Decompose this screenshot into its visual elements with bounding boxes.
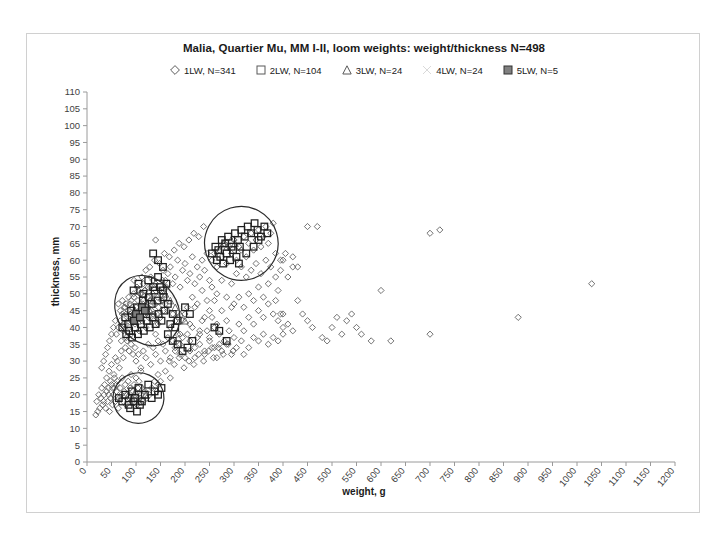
- chart-container: Malia, Quartier Mu, MM I-II, loom weight…: [26, 33, 700, 513]
- svg-text:70: 70: [69, 221, 80, 232]
- svg-text:90: 90: [69, 154, 80, 165]
- svg-text:65: 65: [69, 238, 80, 249]
- svg-text:50: 50: [98, 465, 113, 480]
- svg-text:1000: 1000: [557, 465, 579, 488]
- svg-text:800: 800: [462, 465, 481, 484]
- svg-text:40: 40: [69, 322, 80, 333]
- svg-text:300: 300: [217, 465, 236, 484]
- svg-text:1050: 1050: [581, 465, 603, 488]
- svg-text:1200: 1200: [655, 465, 677, 488]
- svg-text:150: 150: [143, 465, 162, 484]
- svg-text:50: 50: [69, 288, 80, 299]
- svg-text:1100: 1100: [606, 465, 628, 488]
- svg-text:45: 45: [69, 305, 80, 316]
- svg-text:350: 350: [241, 465, 260, 484]
- svg-text:15: 15: [69, 406, 80, 417]
- svg-text:30: 30: [69, 355, 80, 366]
- svg-text:100: 100: [64, 120, 80, 131]
- svg-text:650: 650: [388, 465, 407, 484]
- svg-text:105: 105: [64, 103, 80, 114]
- svg-text:550: 550: [339, 465, 358, 484]
- svg-text:250: 250: [192, 465, 211, 484]
- svg-text:1150: 1150: [630, 465, 652, 488]
- svg-text:0: 0: [77, 465, 89, 476]
- series-diamond: [93, 220, 595, 418]
- svg-text:55: 55: [69, 271, 80, 282]
- svg-text:20: 20: [69, 389, 80, 400]
- plot-area: 0510152025303540455055606570758085909510…: [27, 34, 701, 514]
- svg-text:60: 60: [69, 255, 80, 266]
- svg-text:5: 5: [75, 440, 80, 451]
- svg-text:400: 400: [266, 465, 285, 484]
- svg-text:200: 200: [168, 465, 187, 484]
- svg-text:110: 110: [65, 86, 80, 97]
- svg-text:80: 80: [69, 187, 80, 198]
- svg-text:700: 700: [413, 465, 432, 484]
- svg-text:500: 500: [315, 465, 334, 484]
- svg-text:450: 450: [290, 465, 309, 484]
- svg-text:35: 35: [69, 339, 80, 350]
- svg-text:25: 25: [69, 372, 80, 383]
- svg-text:750: 750: [437, 465, 456, 484]
- svg-text:75: 75: [69, 204, 80, 215]
- svg-text:900: 900: [511, 465, 530, 484]
- svg-text:950: 950: [535, 465, 554, 484]
- svg-text:85: 85: [69, 170, 80, 181]
- svg-text:10: 10: [69, 423, 80, 434]
- svg-text:600: 600: [364, 465, 383, 484]
- svg-text:850: 850: [486, 465, 505, 484]
- svg-text:95: 95: [69, 137, 80, 148]
- svg-text:100: 100: [119, 465, 138, 484]
